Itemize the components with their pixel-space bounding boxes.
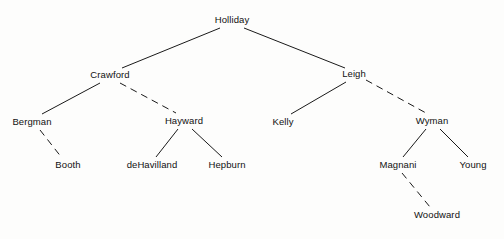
tree-edge-holliday-to-leigh [244, 28, 345, 68]
tree-edge-hayward-to-dehavilland [156, 129, 178, 157]
tree-node-dehavilland: deHavilland [127, 160, 178, 170]
tree-node-kelly: Kelly [272, 117, 293, 127]
tree-edge-hayward-to-hepburn [192, 129, 222, 157]
tree-node-crawford: Crawford [90, 70, 129, 80]
tree-node-wyman: Wyman [416, 116, 449, 126]
tree-node-leigh: Leigh [342, 69, 366, 79]
tree-node-holliday: Holliday [215, 15, 250, 25]
tree-edge-leigh-to-wyman [366, 80, 426, 113]
tree-edge-magnani-to-woodward [402, 173, 430, 207]
tree-node-woodward: Woodward [414, 210, 460, 220]
tree-diagram: HollidayCrawfordLeighBergmanHaywardKelly… [0, 0, 504, 239]
tree-edge-leigh-to-kelly [291, 82, 346, 114]
tree-edge-crawford-to-bergman [42, 83, 100, 114]
tree-edge-wyman-to-young [440, 129, 468, 157]
tree-edge-holliday-to-crawford [122, 28, 220, 68]
tree-node-bergman: Bergman [12, 117, 51, 127]
tree-node-hepburn: Hepburn [208, 160, 245, 170]
tree-edge-wyman-to-magnani [403, 129, 426, 157]
tree-edge-bergman-to-booth [40, 130, 62, 158]
tree-node-hayward: Hayward [165, 116, 203, 126]
tree-node-booth: Booth [55, 160, 80, 170]
tree-node-young: Young [459, 160, 486, 170]
tree-node-magnani: Magnani [379, 160, 416, 170]
tree-edge-crawford-to-hayward [120, 83, 176, 113]
